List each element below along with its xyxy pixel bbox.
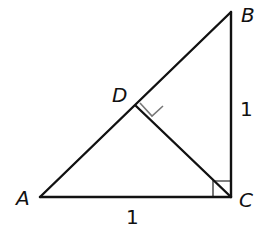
side-label-bc: 1 <box>240 97 253 121</box>
side-label-ac: 1 <box>126 205 139 229</box>
label-b: B <box>241 3 255 27</box>
label-a: A <box>14 186 30 210</box>
triangle-diagram: A B C D 1 1 <box>0 0 274 233</box>
label-d: D <box>112 83 127 107</box>
label-c: C <box>239 188 253 212</box>
segment-cd <box>136 106 231 197</box>
